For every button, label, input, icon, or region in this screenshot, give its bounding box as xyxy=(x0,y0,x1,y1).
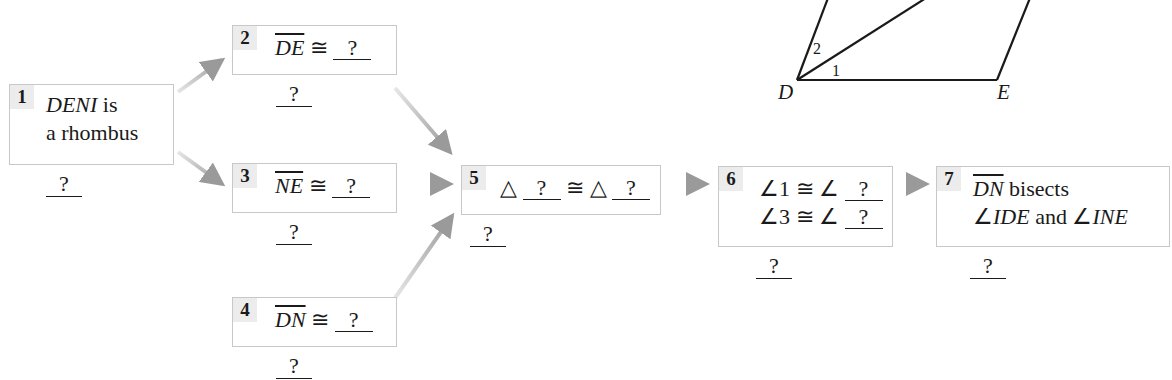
step-5-statement: △ ? ≅ △ ? xyxy=(500,174,650,202)
step-7-statement: DN bisects ∠IDE and ∠INE xyxy=(973,175,1128,231)
step-7-box: 7 DN bisects ∠IDE and ∠INE xyxy=(936,166,1170,247)
step-5-reason-blank[interactable]: ? xyxy=(470,222,506,247)
step-7-reason-blank[interactable]: ? xyxy=(970,254,1006,279)
angle-1-label: 1 xyxy=(832,62,840,80)
step-4-box: 4 DN ≅ ? xyxy=(232,297,397,347)
step-number: 4 xyxy=(233,298,257,322)
step-number: 6 xyxy=(719,167,743,191)
arrow-1-to-2 xyxy=(178,60,222,92)
angle-1-blank[interactable]: ? xyxy=(845,178,883,201)
step-number: 1 xyxy=(10,85,34,109)
step-6-box: 6 ∠1 ≅ ∠ ? ∠3 ≅ ∠ ? xyxy=(718,166,893,247)
step-4-reason-blank[interactable]: ? xyxy=(276,354,312,379)
vertex-e-label: E xyxy=(997,80,1010,105)
angle-3-blank[interactable]: ? xyxy=(845,206,883,229)
step-1-box: 1 DENI is a rhombus xyxy=(9,84,174,165)
step-1-statement: DENI is a rhombus xyxy=(46,91,138,147)
statement-blank[interactable]: ? xyxy=(332,175,370,198)
step-number: 2 xyxy=(233,26,257,50)
step-5-box: 5 △ ? ≅ △ ? xyxy=(461,165,661,215)
step-6-statement: ∠1 ≅ ∠ ? ∠3 ≅ ∠ ? xyxy=(759,175,883,231)
step-2-reason-blank[interactable]: ? xyxy=(276,82,312,107)
step-2-box: 2 DE ≅ ? xyxy=(232,25,397,75)
step-number: 5 xyxy=(462,166,486,190)
arrow-2-to-5 xyxy=(395,88,450,152)
vertex-d-label: D xyxy=(778,80,793,105)
statement-blank[interactable]: ? xyxy=(335,309,373,332)
step-number: 3 xyxy=(233,164,257,188)
arrow-4-to-5 xyxy=(395,216,452,298)
step-3-box: 3 NE ≅ ? xyxy=(232,163,397,213)
arrow-1-to-3 xyxy=(178,152,222,184)
step-number: 7 xyxy=(937,167,961,191)
step-3-reason-blank[interactable]: ? xyxy=(276,220,312,245)
step-2-statement: DE ≅ ? xyxy=(275,34,371,62)
triangle-2-blank[interactable]: ? xyxy=(612,177,650,200)
statement-blank[interactable]: ? xyxy=(333,37,371,60)
step-3-statement: NE ≅ ? xyxy=(275,172,370,200)
step-1-reason-blank[interactable]: ? xyxy=(46,172,82,197)
step-6-reason-blank[interactable]: ? xyxy=(756,254,792,279)
triangle-1-blank[interactable]: ? xyxy=(523,177,561,200)
angle-2-label: 2 xyxy=(813,40,821,58)
step-4-statement: DN ≅ ? xyxy=(275,306,373,334)
